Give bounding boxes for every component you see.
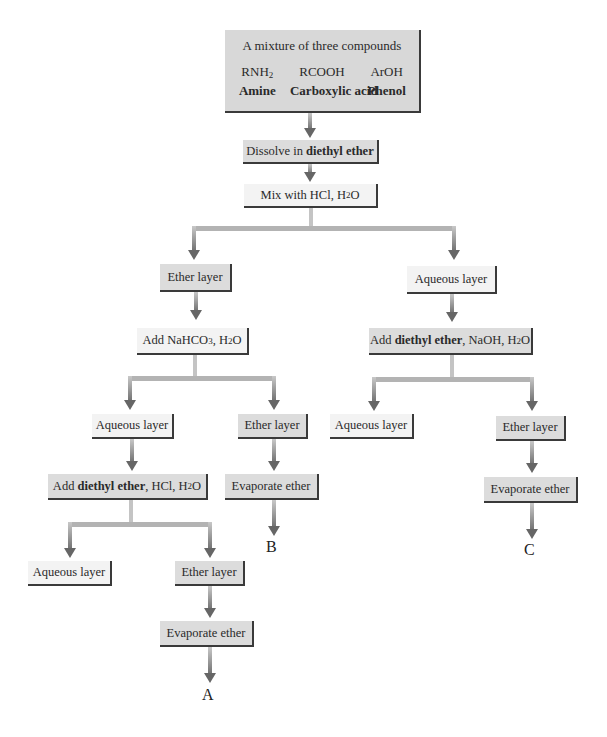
phenol-formula: ArOH bbox=[355, 64, 419, 80]
connector bbox=[452, 226, 456, 252]
connector bbox=[530, 503, 534, 531]
connector bbox=[194, 292, 198, 312]
connector bbox=[272, 439, 276, 463]
connector bbox=[372, 377, 376, 403]
product-b-label: B bbox=[266, 538, 277, 556]
mixture-box: A mixture of three compounds RNH2 RCOOH … bbox=[225, 30, 421, 113]
add-ether-hcl-step: Add diethyl ether, HCl, H2O bbox=[48, 474, 208, 500]
connector bbox=[208, 647, 212, 675]
connector bbox=[309, 208, 313, 228]
arrow-down-icon bbox=[448, 250, 460, 260]
arrow-down-icon bbox=[126, 461, 138, 471]
arrow-down-icon bbox=[204, 673, 216, 683]
arrow-down-icon bbox=[64, 548, 76, 558]
connector bbox=[208, 522, 212, 550]
aqueous-layer-box: Aqueous layer bbox=[28, 561, 112, 586]
ether-layer-box: Ether layer bbox=[238, 414, 308, 439]
arrow-down-icon bbox=[204, 548, 216, 558]
connector bbox=[450, 294, 454, 314]
connector bbox=[530, 377, 534, 403]
arrow-down-icon bbox=[304, 128, 316, 138]
product-c-label: C bbox=[524, 541, 535, 559]
connector bbox=[128, 376, 132, 402]
evaporate-ether-step: Evaporate ether bbox=[160, 621, 254, 647]
connector bbox=[192, 226, 196, 252]
arrow-down-icon bbox=[526, 463, 538, 473]
arrow-down-icon bbox=[368, 401, 380, 411]
arrow-down-icon bbox=[526, 529, 538, 539]
aqueous-layer-box: Aqueous layer bbox=[92, 414, 174, 439]
formula-row: RNH2 RCOOH ArOH bbox=[225, 64, 419, 80]
connector bbox=[128, 376, 276, 381]
amine-formula: RNH2 bbox=[225, 64, 289, 80]
connector bbox=[530, 441, 534, 465]
connector bbox=[208, 586, 212, 610]
mix-hcl-step: Mix with HCl, H2O bbox=[244, 184, 378, 208]
amine-name: Amine bbox=[239, 83, 276, 98]
aqueous-layer-box: Aqueous layer bbox=[330, 414, 414, 439]
arrow-down-icon bbox=[204, 608, 216, 618]
add-nahco3-step: Add NaHCO3, H2O bbox=[137, 328, 249, 355]
arrow-down-icon bbox=[188, 250, 200, 260]
ether-layer-box: Ether layer bbox=[496, 416, 566, 441]
arrow-down-icon bbox=[190, 310, 202, 320]
connector bbox=[372, 377, 534, 382]
connector bbox=[129, 500, 133, 524]
arrow-down-icon bbox=[268, 400, 280, 410]
arrow-down-icon bbox=[268, 461, 280, 471]
connector bbox=[130, 439, 134, 463]
add-ether-naoh-step: Add diethyl ether, NaOH, H2O bbox=[369, 328, 533, 355]
carboxylic-acid-formula: RCOOH bbox=[290, 64, 354, 80]
arrow-down-icon bbox=[526, 401, 538, 411]
connector bbox=[450, 355, 454, 379]
connector bbox=[272, 376, 276, 402]
product-a-label: A bbox=[202, 686, 214, 704]
connector bbox=[272, 500, 276, 528]
dissolve-step: Dissolve in diethyl ether bbox=[243, 140, 379, 164]
connector bbox=[68, 522, 72, 550]
aqueous-layer-box: Aqueous layer bbox=[407, 266, 497, 294]
name-row: Amine Carboxylic acid Phenol bbox=[225, 83, 419, 99]
phenol-name: Phenol bbox=[367, 83, 405, 98]
ether-layer-box: Ether layer bbox=[175, 561, 245, 586]
arrow-down-icon bbox=[304, 172, 316, 182]
evaporate-ether-step: Evaporate ether bbox=[225, 474, 319, 500]
connector bbox=[192, 226, 456, 231]
arrow-down-icon bbox=[268, 526, 280, 536]
arrow-down-icon bbox=[446, 312, 458, 322]
arrow-down-icon bbox=[124, 400, 136, 410]
ether-layer-box: Ether layer bbox=[160, 264, 232, 292]
evaporate-ether-step: Evaporate ether bbox=[484, 477, 578, 503]
mixture-title: A mixture of three compounds bbox=[243, 38, 402, 54]
connector bbox=[68, 522, 212, 527]
